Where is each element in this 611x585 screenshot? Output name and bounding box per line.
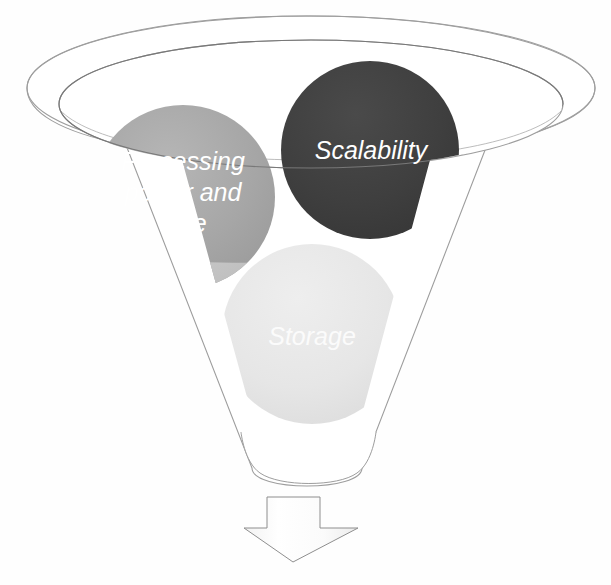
- down-arrow[interactable]: [244, 497, 358, 562]
- bubble-processing-label-line2: power and: [124, 178, 243, 206]
- diagram-canvas: Processing power and time Scalability St…: [0, 0, 611, 585]
- bubble-processing-label-line3: time: [159, 209, 206, 237]
- funnel-diagram-svg: Processing power and time Scalability St…: [0, 0, 611, 585]
- bubble-scalability-label: Scalability: [315, 136, 429, 164]
- bubble-storage-label: Storage: [268, 322, 356, 350]
- down-arrow-shape: [244, 497, 358, 562]
- bubble-processing-label-line1: Processing: [121, 147, 245, 175]
